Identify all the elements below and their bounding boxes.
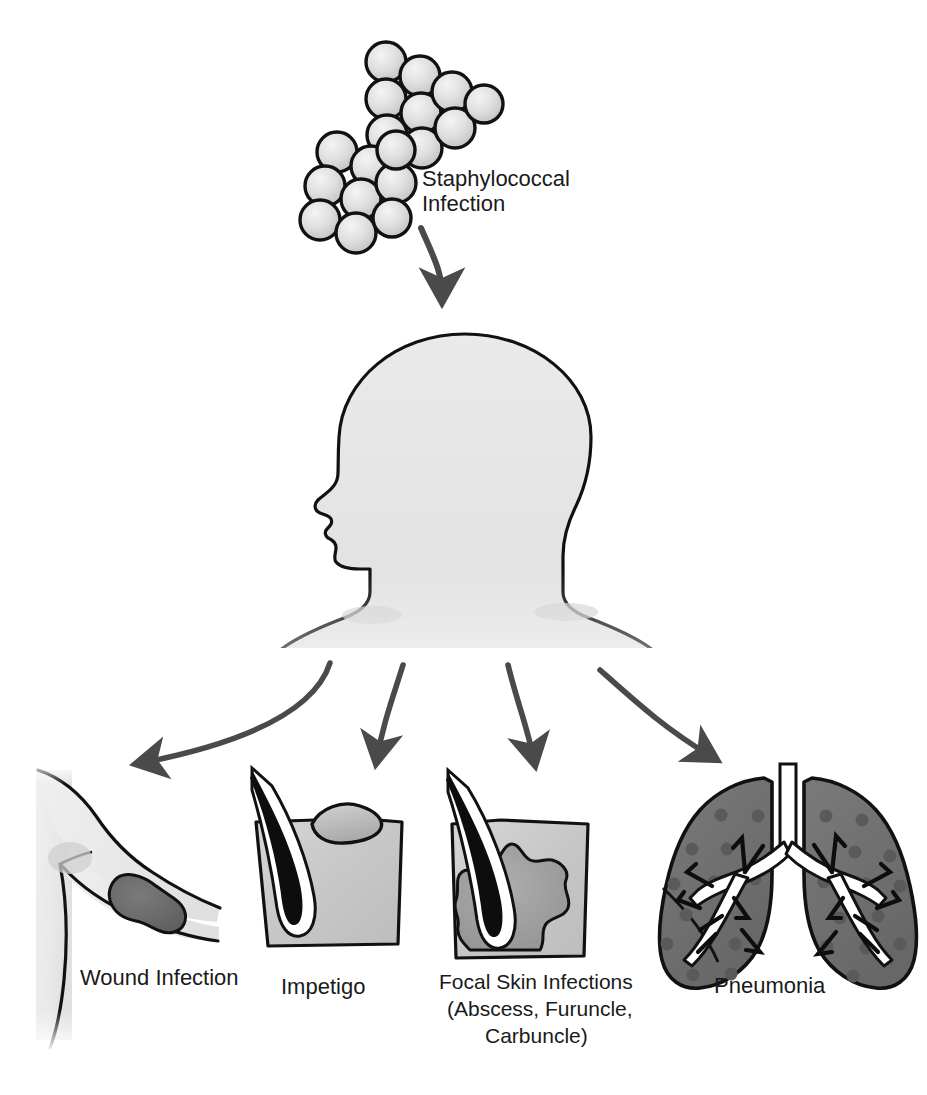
- arrow-infection-to-host: [421, 228, 442, 296]
- staphylococcus-cluster-icon: [300, 42, 503, 253]
- wound-infection-label: Wound Infection: [80, 965, 239, 990]
- focal-skin-infections-label-line2: (Abscess, Furuncle,: [447, 997, 633, 1020]
- staph-infection-label-line1: Staphylococcal: [422, 166, 570, 191]
- wound-lesion: [109, 875, 185, 933]
- coccus-cluster-lower: [300, 131, 416, 253]
- staph-infection-label-line2: Infection: [422, 191, 505, 216]
- staphylococcal-infection-diagram: Staphylococcal Infection: [0, 0, 927, 1095]
- impetigo-bulla: [312, 804, 382, 843]
- focal-skin-infections-label-line1: Focal Skin Infections: [439, 970, 633, 993]
- diagram-canvas: Staphylococcal Infection: [0, 0, 927, 1095]
- pneumonia-label: Pneumonia: [714, 973, 826, 998]
- wound-infection-illustration: [24, 762, 221, 1052]
- focal-skin-infections-label-line3: Carbuncle): [485, 1024, 588, 1047]
- human-head-bust-silhouette: [200, 333, 740, 810]
- impetigo-label: Impetigo: [281, 974, 365, 999]
